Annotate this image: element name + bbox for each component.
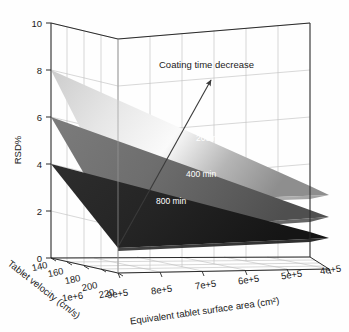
- z-axis-tick-labels: 10 8 6 4 2 0: [31, 18, 42, 264]
- y-tick-140: 140: [31, 259, 49, 273]
- x-tick-7e5: 7e+5: [194, 278, 217, 292]
- y-tick-180: 180: [64, 272, 82, 286]
- surface-label-400-min: 400 min: [186, 169, 217, 179]
- x-tick-4e5: 4e+5: [319, 263, 342, 277]
- z-tick-10: 10: [31, 18, 42, 29]
- x-tick-9e5: 9e+5: [106, 287, 129, 301]
- plot-canvas: 10 8 6 4 2 0 RSD% 140 160 180 200 220 Ta…: [0, 0, 349, 332]
- x-tick-8e5: 8e+5: [150, 283, 173, 297]
- x-tick-6e5: 6e+5: [237, 273, 260, 287]
- z-axis-ticks: [46, 23, 51, 258]
- y-tick-200: 200: [81, 279, 99, 293]
- surface-label-200-min: 200 min: [196, 133, 227, 143]
- z-tick-8: 8: [37, 65, 42, 76]
- x-tick-5e5: 5e+5: [280, 268, 303, 282]
- y-tick-160: 160: [47, 265, 65, 279]
- surface-label-800-min: 800 min: [156, 196, 187, 206]
- z-axis-title: RSD%: [12, 135, 23, 164]
- z-tick-4: 4: [37, 159, 42, 170]
- coating-time-annotation: Coating time decrease: [159, 59, 254, 70]
- z-tick-6: 6: [37, 112, 42, 123]
- x-axis-title: Equivalent tablet surface area (cm²): [129, 295, 280, 327]
- figure-3d-surface-plot: 10 8 6 4 2 0 RSD% 140 160 180 200 220 Ta…: [0, 0, 349, 332]
- x-tick-1e6: 1e+6: [61, 290, 84, 304]
- z-tick-2: 2: [37, 206, 42, 217]
